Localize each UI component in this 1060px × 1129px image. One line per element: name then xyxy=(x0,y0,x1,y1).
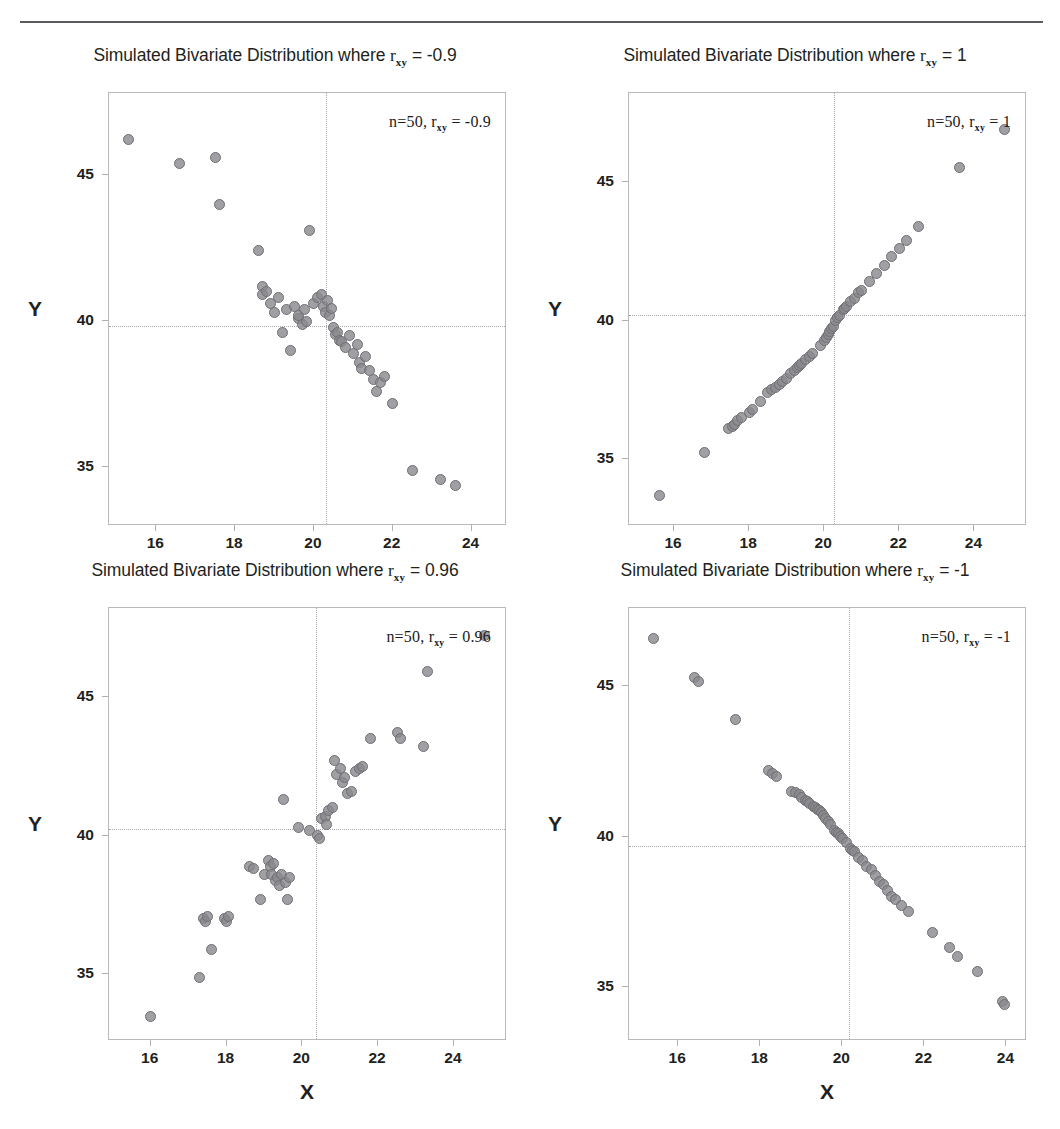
x-axis-tick-label: 20 xyxy=(833,1049,850,1067)
y-axis-tick xyxy=(622,685,628,686)
data-point xyxy=(261,286,272,297)
x-axis-tick-label: 18 xyxy=(751,1049,768,1067)
data-point xyxy=(210,152,221,163)
y-axis-tick-label: 35 xyxy=(62,964,94,982)
y-axis-tick xyxy=(102,174,108,175)
data-point xyxy=(901,235,912,246)
data-point xyxy=(903,906,914,917)
data-point xyxy=(304,225,315,236)
plot-frame: n=50, rxy = 0.96 xyxy=(108,607,506,1040)
x-axis-tick-label: 20 xyxy=(815,534,832,552)
correlation-annotation: n=50, rxy = -0.9 xyxy=(389,113,491,133)
y-axis-tick-label: 45 xyxy=(62,165,94,183)
x-axis-tick xyxy=(471,525,472,531)
y-axis-tick xyxy=(102,466,108,467)
x-axis-tick-label: 24 xyxy=(965,534,982,552)
plot-area: n=50, rxy = -1 xyxy=(629,608,1025,1039)
correlation-annotation: n=50, rxy = 1 xyxy=(927,113,1011,133)
data-point xyxy=(202,911,213,922)
data-point xyxy=(699,447,710,458)
data-point xyxy=(856,285,867,296)
x-axis-tick-label: 16 xyxy=(147,534,164,552)
data-point xyxy=(346,786,357,797)
crosshair-vertical-line xyxy=(834,93,835,524)
data-point xyxy=(284,872,295,883)
data-point xyxy=(360,351,371,362)
x-axis-tick xyxy=(1005,1040,1006,1046)
data-point xyxy=(450,480,461,491)
x-axis-tick-label: 22 xyxy=(383,534,400,552)
x-axis-title: X xyxy=(820,1080,834,1104)
x-axis-tick-label: 22 xyxy=(890,534,907,552)
x-axis-tick xyxy=(377,1040,378,1046)
panel-title-r-symbol: rxy xyxy=(390,45,407,65)
y-axis-tick xyxy=(622,986,628,987)
data-point xyxy=(273,292,284,303)
x-axis-tick xyxy=(155,525,156,531)
y-axis-tick-label: 35 xyxy=(62,457,94,475)
x-axis-tick-label: 22 xyxy=(368,1049,385,1067)
x-axis-tick xyxy=(150,1040,151,1046)
data-point xyxy=(327,802,338,813)
data-point xyxy=(145,1011,156,1022)
x-axis-tick-label: 16 xyxy=(669,1049,686,1067)
data-point xyxy=(352,339,363,350)
x-axis-title: X xyxy=(300,1080,314,1104)
x-axis-tick xyxy=(453,1040,454,1046)
x-axis-tick xyxy=(898,525,899,531)
x-axis-tick xyxy=(759,1040,760,1046)
x-axis-tick xyxy=(823,525,824,531)
panel-title-r-symbol: rxy xyxy=(920,45,937,65)
data-point xyxy=(379,371,390,382)
data-point xyxy=(268,858,279,869)
panel-title: Simulated Bivariate Distribution where r… xyxy=(540,560,1050,583)
x-axis-tick-label: 24 xyxy=(462,534,479,552)
y-axis-tick xyxy=(622,458,628,459)
data-point xyxy=(954,162,965,173)
plot-area: n=50, rxy = 0.96 xyxy=(109,608,505,1039)
data-point xyxy=(194,972,205,983)
plot-frame: n=50, rxy = -0.9 xyxy=(108,92,506,525)
crosshair-vertical-line xyxy=(849,608,850,1039)
annotation-r-symbol: rxy xyxy=(429,628,445,645)
annotation-r-symbol: rxy xyxy=(969,113,985,130)
y-axis-tick-label: 45 xyxy=(582,676,614,694)
data-point xyxy=(654,490,665,501)
x-axis-tick-label: 20 xyxy=(304,534,321,552)
data-point xyxy=(301,316,312,327)
data-point xyxy=(214,199,225,210)
plot-frame: n=50, rxy = -1 xyxy=(628,607,1026,1040)
data-point xyxy=(282,894,293,905)
y-axis-title: Y xyxy=(548,297,562,321)
x-axis-tick xyxy=(748,525,749,531)
y-axis-tick xyxy=(102,973,108,974)
data-point xyxy=(387,398,398,409)
plot-frame: n=50, rxy = 1 xyxy=(628,92,1026,525)
annotation-r-symbol: rxy xyxy=(964,628,980,645)
crosshair-vertical-line xyxy=(316,608,317,1039)
x-axis-tick xyxy=(392,525,393,531)
x-axis-tick xyxy=(313,525,314,531)
plot-area: n=50, rxy = -0.9 xyxy=(109,93,505,524)
y-axis-tick xyxy=(102,696,108,697)
data-point xyxy=(326,303,337,314)
data-point xyxy=(123,134,134,145)
data-point xyxy=(927,927,938,938)
y-axis-title: Y xyxy=(548,812,562,836)
y-axis-title: Y xyxy=(28,812,42,836)
data-point xyxy=(999,999,1010,1010)
x-axis-tick xyxy=(301,1040,302,1046)
y-axis-tick-label: 40 xyxy=(582,827,614,845)
annotation-r-symbol: rxy xyxy=(431,113,447,130)
x-axis-tick-label: 20 xyxy=(293,1049,310,1067)
panel-title: Simulated Bivariate Distribution where r… xyxy=(540,45,1050,68)
plot-area: n=50, rxy = 1 xyxy=(629,93,1025,524)
y-axis-tick-label: 40 xyxy=(582,311,614,329)
x-axis-tick xyxy=(234,525,235,531)
x-axis-tick xyxy=(923,1040,924,1046)
data-point xyxy=(435,474,446,485)
data-point xyxy=(253,245,264,256)
data-point xyxy=(730,714,741,725)
data-point xyxy=(395,733,406,744)
data-point xyxy=(248,863,259,874)
